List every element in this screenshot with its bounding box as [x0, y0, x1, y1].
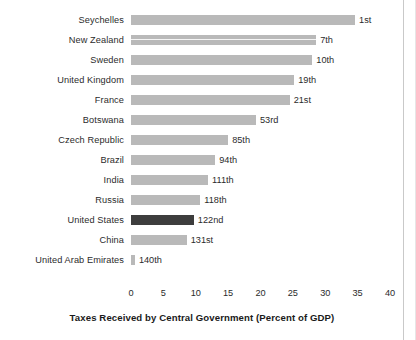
x-axis-tick-label: 15 [223, 288, 233, 298]
bar [131, 155, 215, 165]
category-label: United Kingdom [0, 70, 124, 90]
bar-value-label: 21st [294, 90, 311, 110]
scan-page-edge [403, 0, 404, 340]
bar-track: 94th [131, 150, 416, 170]
bar [131, 195, 200, 205]
bar-row: United Arab Emirates140th [0, 250, 416, 270]
bar-track: 122nd [131, 210, 416, 230]
bar-row: Botswana53rd [0, 110, 416, 130]
bar-value-label: 85th [232, 130, 250, 150]
bar-row: Sweden10th [0, 50, 416, 70]
bar [131, 135, 228, 145]
bar [131, 215, 194, 225]
bar-row: United Kingdom19th [0, 70, 416, 90]
category-label: Czech Republic [0, 130, 124, 150]
bar-track: 21st [131, 90, 416, 110]
category-label: Botswana [0, 110, 124, 130]
x-axis-tick-label: 40 [385, 288, 395, 298]
bar-track: 85th [131, 130, 416, 150]
x-axis-tick-label: 35 [353, 288, 363, 298]
bar-row: China131st [0, 230, 416, 250]
x-axis-ticks: 0510152025303540 [131, 288, 390, 302]
x-axis-title: Taxes Received by Central Government (Pe… [0, 312, 404, 323]
bar-row: Seychelles1st [0, 10, 416, 30]
bar-row: New Zealand7th [0, 30, 416, 50]
bar [131, 35, 316, 45]
bar-value-label: 1st [359, 10, 371, 30]
category-label: New Zealand [0, 30, 124, 50]
bar-row: Czech Republic85th [0, 130, 416, 150]
category-label: United Arab Emirates [0, 250, 124, 270]
bar-row: India111th [0, 170, 416, 190]
bar-row: Russia118th [0, 190, 416, 210]
bar [131, 55, 312, 65]
x-axis-tick-label: 10 [191, 288, 201, 298]
bar-value-label: 131st [191, 230, 213, 250]
bar-value-label: 94th [219, 150, 237, 170]
bar-track: 111th [131, 170, 416, 190]
bar [131, 175, 208, 185]
bar-value-label: 53rd [260, 110, 278, 130]
bar [131, 235, 187, 245]
bar-track: 7th [131, 30, 416, 50]
bar-value-label: 19th [298, 70, 316, 90]
category-label: Seychelles [0, 10, 124, 30]
bar-value-label: 111th [212, 170, 234, 190]
bar [131, 15, 355, 25]
bar-track: 53rd [131, 110, 416, 130]
bar-row: United States122nd [0, 210, 416, 230]
bar-value-label: 10th [316, 50, 334, 70]
category-label: China [0, 230, 124, 250]
bar-value-label: 122nd [198, 210, 224, 230]
scan-artifact [131, 39, 316, 40]
x-axis-tick-label: 30 [320, 288, 330, 298]
x-axis-tick-label: 0 [128, 288, 133, 298]
bar-track: 1st [131, 10, 416, 30]
category-label: Russia [0, 190, 124, 210]
bar-row: France21st [0, 90, 416, 110]
bar-value-label: 140th [139, 250, 162, 270]
bar [131, 115, 256, 125]
bar-value-label: 118th [204, 190, 226, 210]
bar-track: 118th [131, 190, 416, 210]
category-label: Brazil [0, 150, 124, 170]
bar-track: 19th [131, 70, 416, 90]
bar-chart-figure: Seychelles1stNew Zealand7thSweden10thUni… [0, 0, 416, 340]
bar-track: 131st [131, 230, 416, 250]
x-axis-tick-label: 20 [255, 288, 265, 298]
x-axis-tick-label: 25 [288, 288, 298, 298]
category-label: Sweden [0, 50, 124, 70]
category-label: India [0, 170, 124, 190]
category-label: France [0, 90, 124, 110]
bar-track: 10th [131, 50, 416, 70]
bar [131, 75, 294, 85]
category-label: United States [0, 210, 124, 230]
bar-value-label: 7th [320, 30, 333, 50]
x-axis-tick-label: 5 [161, 288, 166, 298]
bar [131, 255, 135, 265]
bar [131, 95, 290, 105]
bar-row: Brazil94th [0, 150, 416, 170]
bar-track: 140th [131, 250, 416, 270]
